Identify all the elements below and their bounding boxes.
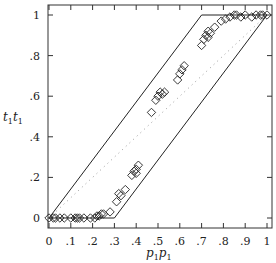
- x-tick-label: .1: [66, 235, 77, 248]
- y-tick-label: 1: [33, 9, 40, 22]
- x-tick-label: 0: [46, 235, 53, 248]
- diagonal-line: [49, 15, 267, 218]
- x-tick-label: .3: [109, 235, 120, 248]
- y-tick-label: 0: [33, 212, 40, 225]
- bound-lines: [49, 15, 267, 218]
- axis-ticks: [48, 5, 272, 228]
- x-tick-label: .8: [218, 235, 229, 248]
- plot-frame: [48, 5, 272, 228]
- diamond-marker: [217, 17, 225, 25]
- scatter-chart: 0.1.2.3.4.5.6.7.8.91 0.2.4.6.81 p1p1 t1t…: [0, 0, 276, 263]
- x-tick-label: .9: [240, 235, 251, 248]
- y-axis-label: t1t1: [3, 110, 23, 126]
- y-axis-tick-labels: 0.2.4.6.81: [30, 9, 41, 225]
- x-axis-label: p1p1: [146, 246, 172, 262]
- y-tick-label: .6: [30, 90, 41, 103]
- diamond-marker: [147, 108, 155, 116]
- x-tick-label: 1: [264, 235, 271, 248]
- y-tick-label: .4: [30, 131, 41, 144]
- x-tick-label: .7: [196, 235, 207, 248]
- x-tick-label: .4: [131, 235, 142, 248]
- lower-bound-line: [49, 15, 267, 218]
- diamond-marker: [221, 15, 229, 23]
- y-tick-label: .8: [30, 50, 41, 63]
- x-tick-label: .6: [175, 235, 186, 248]
- upper-bound-line: [49, 15, 267, 218]
- y-tick-label: .2: [30, 171, 41, 184]
- x-tick-label: .2: [87, 235, 98, 248]
